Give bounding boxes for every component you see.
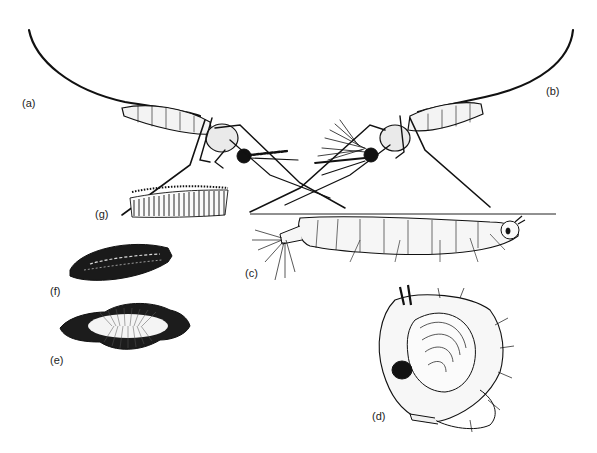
larva-c [252, 216, 525, 280]
label-g: (g) [95, 209, 108, 220]
label-f: (f) [50, 286, 60, 297]
pupa-d [379, 285, 514, 432]
label-d: (d) [372, 411, 385, 422]
label-b: (b) [546, 86, 559, 97]
egg-e [60, 303, 190, 349]
label-a: (a) [22, 98, 35, 109]
mosquito-life-cycle-figure: (a) (b) (c) (d) (e) (f) (g) [0, 0, 597, 453]
egg-f [70, 244, 172, 280]
adult-mosquito-b [250, 30, 573, 212]
label-e: (e) [50, 355, 63, 366]
adult-mosquito-a [29, 30, 345, 215]
egg-raft-g [130, 186, 228, 217]
label-c: (c) [245, 268, 258, 279]
figure-artwork [0, 0, 597, 453]
